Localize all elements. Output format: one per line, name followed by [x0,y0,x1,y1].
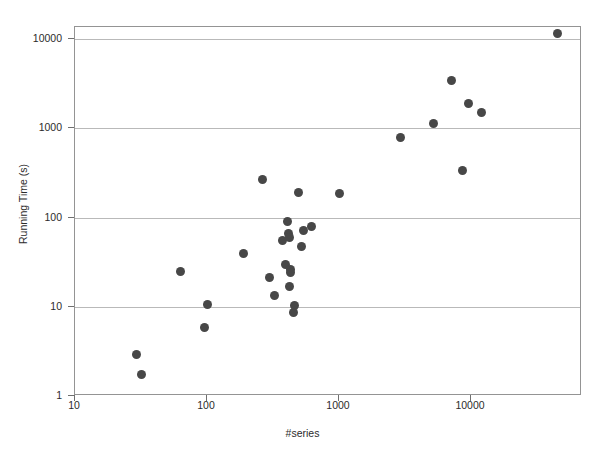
data-point [447,76,456,85]
gridline-y-10 [75,307,580,308]
gridline-y-10000 [75,39,580,40]
scatter-chart: 110100100010000 10100100010000 Running T… [0,0,605,472]
x-tick-mark-10 [74,395,75,401]
data-point [132,350,141,359]
data-point [265,273,274,282]
x-tick-label-1000: 1000 [326,400,349,411]
data-point [396,133,405,142]
data-point [297,242,306,251]
data-point [285,233,294,242]
y-tick-label-1000: 1000 [0,122,62,133]
data-point [137,370,146,379]
gridline-y-1000 [75,128,580,129]
x-tick-label-10: 10 [68,400,80,411]
data-point [203,300,212,309]
plot-area [74,26,581,395]
y-tick-label-10000: 10000 [0,33,62,44]
data-point [286,268,295,277]
y-axis-label: Running Time (s) [17,124,29,284]
y-tick-label-10: 10 [0,301,62,312]
data-point [458,166,467,175]
gridline-y-100 [75,218,580,219]
data-point [176,267,185,276]
data-point [270,291,279,300]
data-point [307,222,316,231]
data-point [294,188,303,197]
data-point [258,175,267,184]
data-point [335,189,344,198]
data-point [290,301,299,310]
data-point [285,282,294,291]
x-axis-label: #series [0,427,605,439]
x-tick-label-10000: 10000 [455,400,484,411]
data-point [200,323,209,332]
y-tick-label-100: 100 [0,212,62,223]
data-point [283,217,292,226]
data-point [239,249,248,258]
data-point [464,99,473,108]
x-tick-mark-1000 [338,395,339,401]
data-point [429,119,438,128]
data-point [553,29,562,38]
x-tick-mark-10000 [470,395,471,401]
y-tick-label-1: 1 [0,390,62,401]
x-tick-mark-100 [206,395,207,401]
x-tick-label-100: 100 [197,400,215,411]
data-point [477,108,486,117]
